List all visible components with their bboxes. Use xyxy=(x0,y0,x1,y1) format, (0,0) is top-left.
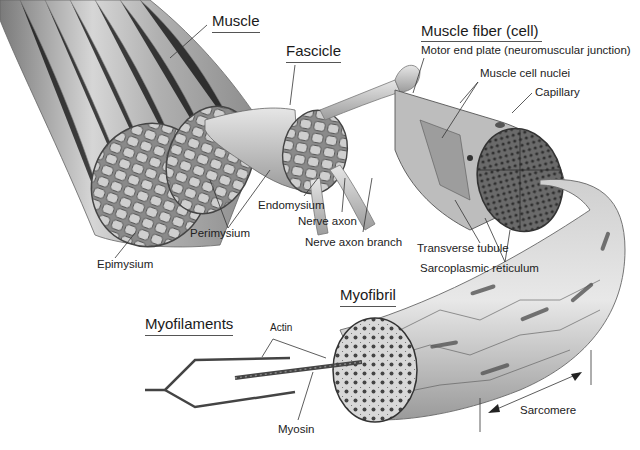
label-nerve-axon: Nerve axon xyxy=(298,216,357,228)
label-sarcomere: Sarcomere xyxy=(520,405,576,417)
label-motor-end-plate: Motor end plate (neuromuscular junction) xyxy=(421,45,631,57)
label-perimysium: Perimysium xyxy=(190,228,250,240)
title-myofilaments: Myofilaments xyxy=(145,316,233,336)
label-nerve-axon-branch: Nerve axon branch xyxy=(305,237,402,249)
label-epimysium: Epimysium xyxy=(97,259,153,271)
label-endomysium: Endomysium xyxy=(258,200,324,212)
title-fascicle: Fascicle xyxy=(286,43,341,63)
myofilaments-body xyxy=(145,358,362,407)
label-sarcoplasmic-reticulum: Sarcoplasmic reticulum xyxy=(420,263,539,275)
muscle-anatomy-diagram: Muscle Fascicle Muscle fiber (cell) Myof… xyxy=(0,0,640,450)
muscle-fiber xyxy=(395,90,574,241)
label-transverse-tubule: Transverse tubule xyxy=(417,243,509,255)
title-muscle-fiber-underline xyxy=(421,41,542,42)
label-actin: Actin xyxy=(270,323,292,333)
title-muscle: Muscle xyxy=(212,13,260,33)
label-capillary: Capillary xyxy=(535,87,580,99)
label-muscle-cell-nuclei: Muscle cell nuclei xyxy=(480,68,570,80)
title-myofibril: Myofibril xyxy=(340,287,396,307)
title-muscle-fiber: Muscle fiber (cell) xyxy=(421,23,539,42)
label-myosin: Myosin xyxy=(278,424,314,436)
